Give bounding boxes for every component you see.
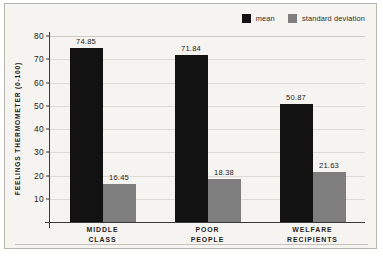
y-tick-label-10: 10 [34,194,44,204]
bar-standard-deviation-1[interactable]: 18.38 [208,179,241,222]
legend-label-mean: mean [256,14,275,23]
plot-area: 1020304050607080 74.8516.4571.8418.3850.… [50,36,365,222]
y-tick-label-40: 40 [34,124,44,134]
y-tick-label-70: 70 [34,54,44,64]
legend-entry-mean[interactable]: mean [242,14,275,23]
bar-mean-2[interactable]: 50.87 [280,104,313,222]
category-label-line: POOR [155,225,260,235]
bar-value-label: 71.84 [181,44,201,53]
y-tick-mark-30 [46,152,50,153]
bar-standard-deviation-0[interactable]: 16.45 [103,184,136,222]
footer-rule [15,244,368,245]
legend-label-standard-deviation: standard deviation [302,14,365,23]
y-tick-label-60: 60 [34,78,44,88]
bar-standard-deviation-2[interactable]: 21.63 [313,172,346,222]
y-axis-title: FEELINGS THERMOMETER (0-100) [11,32,25,224]
bar-value-label: 74.85 [76,37,96,46]
bar-value-label: 21.63 [319,161,339,170]
x-axis-categories: MIDDLECLASSPOORPEOPLEWELFARERECIPIENTS [50,225,365,249]
chart-legend: mean standard deviation [242,12,365,24]
category-label-1: POORPEOPLE [155,225,260,244]
y-tick-label-80: 80 [34,31,44,41]
category-label-line: CLASS [50,235,155,245]
y-tick-label-30: 30 [34,147,44,157]
y-tick-mark-20 [46,175,50,176]
y-tick-label-20: 20 [34,171,44,181]
y-tick-mark-80 [46,36,50,37]
chart-figure: mean standard deviation FEELINGS THERMOM… [4,3,377,249]
y-tick-label-50: 50 [34,101,44,111]
category-label-line: PEOPLE [155,235,260,245]
gridline-80 [50,36,365,37]
legend-swatch-standard-deviation [288,14,297,23]
bar-value-label: 50.87 [286,93,306,102]
y-tick-mark-60 [46,82,50,83]
category-label-2: WELFARERECIPIENTS [260,225,365,244]
category-label-line: RECIPIENTS [260,235,365,245]
category-label-line: MIDDLE [50,225,155,235]
category-label-line: WELFARE [260,225,365,235]
bar-value-label: 18.38 [214,168,234,177]
y-tick-mark-10 [46,198,50,199]
x-axis-line [45,222,365,223]
y-axis-title-text: FEELINGS THERMOMETER (0-100) [15,61,22,194]
legend-swatch-mean [242,14,251,23]
y-tick-mark-70 [46,59,50,60]
bar-mean-1[interactable]: 71.84 [175,55,208,222]
category-label-0: MIDDLECLASS [50,225,155,244]
bar-mean-0[interactable]: 74.85 [70,48,103,222]
legend-entry-standard-deviation[interactable]: standard deviation [288,14,365,23]
y-tick-mark-40 [46,129,50,130]
y-tick-mark-50 [46,105,50,106]
bar-value-label: 16.45 [109,173,129,182]
